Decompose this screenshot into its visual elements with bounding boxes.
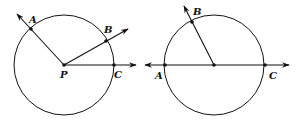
ray-PB [64,29,128,65]
point-C [112,63,116,67]
point-A [29,27,33,31]
label-C: C [269,70,277,81]
point-C [263,63,267,67]
label-A: A [154,70,163,81]
label-B: B [103,24,112,35]
ray-PA [17,14,64,65]
point-A [163,63,167,67]
label-B: B [192,6,201,17]
label-P: P [59,69,68,80]
label-A: A [28,14,37,25]
diagram-canvas: P A B C A B C [0,0,300,122]
geometry-figures: P A B C A B C [0,0,300,122]
point-B [104,39,108,43]
label-C: C [114,69,122,80]
left-figure: P A B C [14,14,136,115]
right-figure: A B C [145,6,289,115]
point-center [212,63,216,67]
point-P [62,63,66,67]
point-B [190,20,194,24]
